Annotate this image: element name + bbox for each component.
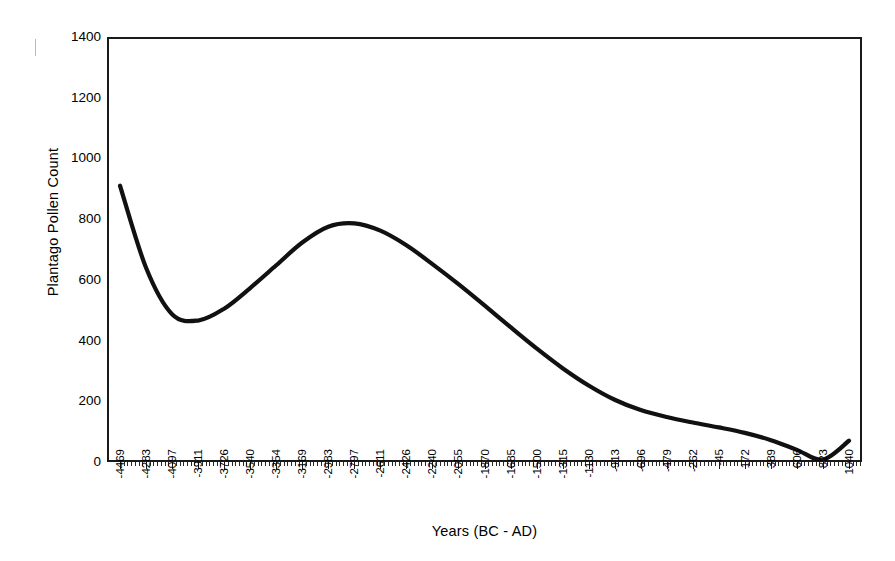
y-axis-tick-label: 400: [78, 334, 101, 348]
x-axis-minor-tick: [760, 462, 761, 466]
x-axis-tick-label: -2240: [426, 449, 438, 503]
x-axis-tick-label: 823: [817, 449, 829, 503]
x-axis-minor-tick: [447, 462, 448, 466]
y-axis-tick-label: 200: [78, 394, 101, 408]
x-axis-tick-label: 172: [739, 449, 751, 503]
x-axis-minor-tick: [726, 462, 727, 466]
x-axis-minor-tick: [131, 462, 132, 466]
x-axis-minor-tick: [622, 462, 623, 466]
y-axis-tick-label: 1200: [71, 91, 101, 105]
x-axis-tick-label: -2055: [452, 449, 464, 503]
x-axis-minor-tick: [574, 462, 575, 466]
x-axis-minor-tick: [209, 462, 210, 466]
x-axis-minor-tick: [213, 462, 214, 466]
x-axis-minor-tick: [652, 462, 653, 466]
x-axis-minor-tick: [756, 462, 757, 466]
x-axis-tick-label: -1315: [557, 449, 569, 503]
x-axis-minor-tick: [700, 462, 701, 466]
x-axis-tick-label: -3911: [192, 449, 204, 503]
x-axis-minor-tick: [206, 462, 207, 466]
x-axis-minor-tick: [339, 462, 340, 466]
x-axis-minor-tick: [180, 462, 181, 466]
x-axis-tick-label: -4283: [140, 449, 152, 503]
x-axis-tick-label: 1040: [843, 449, 855, 503]
x-axis-minor-tick: [265, 462, 266, 466]
x-axis-minor-tick: [544, 462, 545, 466]
x-axis-minor-tick: [600, 462, 601, 466]
x-axis-tick-label: 389: [765, 449, 777, 503]
x-axis-tick-label: -1685: [505, 449, 517, 503]
x-axis-tick-label: -3354: [270, 449, 282, 503]
pollen-count-chart: Plantago Pollen Count 020040060080010001…: [0, 0, 895, 561]
x-axis-tick-label: -45: [713, 449, 725, 503]
y-axis-tick-label: 0: [93, 455, 101, 469]
x-axis-minor-tick: [157, 462, 158, 466]
x-axis-minor-tick: [362, 462, 363, 466]
x-axis-minor-tick: [414, 462, 415, 466]
x-axis-minor-tick: [369, 462, 370, 466]
x-axis-minor-tick: [522, 462, 523, 466]
x-axis-tick-label: 606: [791, 449, 803, 503]
y-axis-tick-label: 1000: [71, 151, 101, 165]
x-axis-minor-tick: [674, 462, 675, 466]
x-axis-minor-tick: [492, 462, 493, 466]
x-axis-tick-label: -2983: [322, 449, 334, 503]
x-axis-minor-tick: [477, 462, 478, 466]
x-axis-minor-tick: [704, 462, 705, 466]
x-axis-minor-tick: [313, 462, 314, 466]
y-axis-tick-label: 800: [78, 212, 101, 226]
x-axis-minor-tick: [365, 462, 366, 466]
x-axis-minor-tick: [418, 462, 419, 466]
x-axis-minor-tick: [782, 462, 783, 466]
x-axis-minor-tick: [503, 462, 504, 466]
x-axis-minor-tick: [529, 462, 530, 466]
x-axis-minor-tick: [577, 462, 578, 466]
series-line-plantago: [107, 37, 862, 462]
x-axis-minor-tick: [258, 462, 259, 466]
x-axis-minor-tick: [235, 462, 236, 466]
x-axis-minor-tick: [239, 462, 240, 466]
x-axis-minor-tick: [496, 462, 497, 466]
x-axis-title: Years (BC - AD): [107, 523, 862, 539]
x-axis-minor-tick: [473, 462, 474, 466]
x-axis-minor-tick: [734, 462, 735, 466]
x-axis-minor-tick: [343, 462, 344, 466]
x-axis-minor-tick: [183, 462, 184, 466]
x-axis-minor-tick: [161, 462, 162, 466]
plot-area: [107, 37, 862, 462]
x-axis-minor-tick: [466, 462, 467, 466]
x-axis-minor-tick: [470, 462, 471, 466]
y-axis-tick-labels: 0200400600800100012001400: [55, 0, 101, 561]
x-axis-minor-tick: [440, 462, 441, 466]
x-axis-minor-tick: [838, 462, 839, 466]
x-axis-minor-tick: [388, 462, 389, 466]
x-axis-minor-tick: [548, 462, 549, 466]
x-axis-minor-tick: [604, 462, 605, 466]
x-axis-minor-tick: [395, 462, 396, 466]
x-axis-tick-label: -2611: [374, 449, 386, 503]
x-axis-minor-tick: [752, 462, 753, 466]
x-axis-tick-label: -1500: [531, 449, 543, 503]
x-axis-minor-tick: [153, 462, 154, 466]
x-axis-minor-tick: [261, 462, 262, 466]
x-axis-minor-tick: [648, 462, 649, 466]
x-axis-minor-tick: [786, 462, 787, 466]
x-axis-minor-tick: [860, 462, 861, 466]
x-axis-minor-tick: [630, 462, 631, 466]
x-axis-minor-tick: [570, 462, 571, 466]
x-axis-minor-tick: [187, 462, 188, 466]
x-axis-tick-label: -1870: [479, 449, 491, 503]
x-axis-tick-label: -3169: [296, 449, 308, 503]
x-axis-minor-tick: [392, 462, 393, 466]
x-axis-tick-label: -1130: [583, 449, 595, 503]
x-axis-minor-tick: [682, 462, 683, 466]
x-axis-minor-tick: [421, 462, 422, 466]
x-axis-minor-tick: [812, 462, 813, 466]
x-axis-minor-tick: [518, 462, 519, 466]
x-axis-tick-label: -913: [609, 449, 621, 503]
x-axis-minor-tick: [678, 462, 679, 466]
x-axis-minor-tick: [804, 462, 805, 466]
x-axis-minor-tick: [336, 462, 337, 466]
x-axis-minor-tick: [287, 462, 288, 466]
x-axis-minor-tick: [830, 462, 831, 466]
